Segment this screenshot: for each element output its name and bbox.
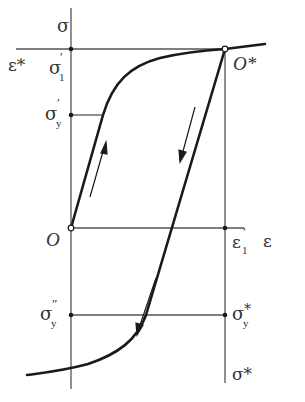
svg-text:y: y (56, 117, 62, 129)
svg-text:y: y (243, 317, 249, 329)
stress-strain-diagram: σ ε ε* σ ′ 1 σ ′ y O O* ε ′ 1 σ ″ y σ * … (0, 0, 305, 402)
svg-text:″: ″ (52, 296, 57, 311)
point-reload-origin (222, 46, 228, 52)
svg-text:′: ′ (60, 49, 63, 64)
eps1-prime-label: ε ′ 1 (232, 224, 248, 256)
dot-sigmay-star (223, 313, 228, 318)
points (68, 46, 228, 317)
sigma1-prime-label: σ ′ 1 (49, 49, 65, 83)
svg-text:1: 1 (242, 244, 248, 256)
sigma-star-label: σ* (232, 364, 253, 384)
arrow-down-icon (136, 278, 156, 335)
svg-text:*: * (244, 301, 251, 317)
epsilon-axis-label: ε (263, 231, 272, 251)
eps-star-label: ε* (8, 55, 26, 75)
dot-eps1-prime (223, 226, 228, 231)
svg-text:y: y (51, 317, 57, 329)
svg-text:′: ′ (243, 224, 246, 239)
svg-text:1: 1 (59, 71, 65, 83)
origin-label: O (46, 229, 60, 250)
dot-sigmay-double-prime (69, 313, 74, 318)
point-origin (68, 225, 74, 231)
sigma-axis-label: σ (57, 15, 69, 36)
dot-sigmay-prime (69, 113, 74, 118)
dot-sigma1-prime (69, 47, 74, 52)
svg-text:ε: ε (232, 232, 241, 252)
sigmay-double-prime-label: σ ″ y (40, 296, 57, 329)
direction-arrows (90, 107, 195, 335)
reload-origin-label: O* (233, 53, 257, 74)
svg-text:′: ′ (57, 95, 60, 110)
sigmay-prime-label: σ ′ y (45, 95, 62, 129)
sigmay-star-label: σ * y (232, 301, 251, 329)
